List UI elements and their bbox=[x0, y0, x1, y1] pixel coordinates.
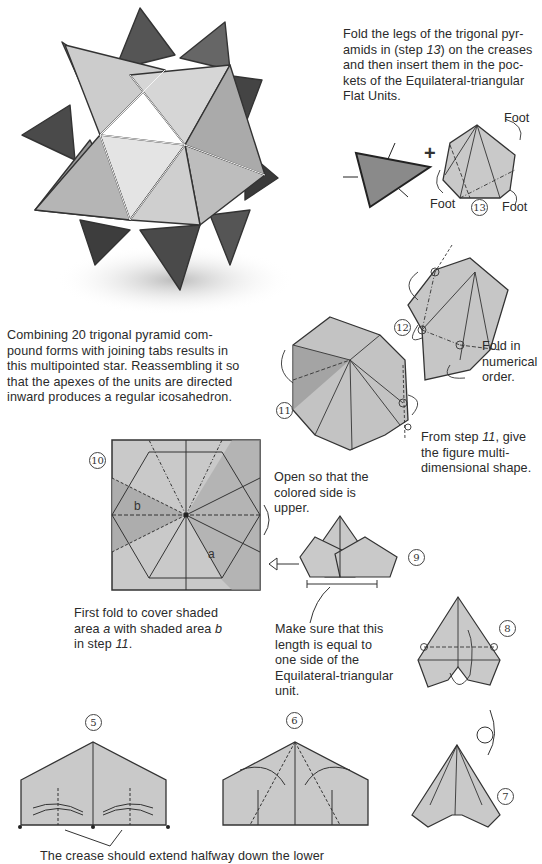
step-number-6: 6 bbox=[286, 712, 303, 729]
pointer-arrow bbox=[300, 585, 340, 625]
step-8-diagram bbox=[410, 595, 510, 695]
step-number-11: 11 bbox=[276, 402, 293, 419]
caption-insert-legs: Fold the legs of the trigonal pyr- amids… bbox=[343, 27, 533, 105]
foot-label: Foot bbox=[502, 200, 527, 214]
multipointed-star-drawing bbox=[0, 0, 300, 320]
caption-make-sure-length: Make sure that this length is equal to o… bbox=[275, 622, 393, 700]
step-10-crease-diagram: b a bbox=[112, 440, 262, 592]
caption-from-step-11: From step 11, give the figure multi- dim… bbox=[421, 430, 531, 477]
step-5-diagram bbox=[18, 740, 173, 830]
caption-open-colored-side: Open so that the colored side is upper. bbox=[274, 470, 369, 517]
step-7-diagram bbox=[400, 705, 520, 830]
svg-text:b: b bbox=[134, 499, 141, 513]
caption-first-fold: First fold to cover shaded area a with s… bbox=[74, 606, 222, 653]
svg-text:a: a bbox=[208, 547, 215, 561]
step-number-9: 9 bbox=[408, 549, 425, 566]
step-9-diagram bbox=[265, 512, 405, 592]
step-11-diagram bbox=[290, 315, 420, 455]
caption-crease-note: The crease should extend halfway down th… bbox=[40, 849, 324, 864]
step-number-10: 10 bbox=[89, 452, 106, 469]
step-number-7: 7 bbox=[497, 788, 514, 805]
caption-star-description: Combining 20 trigonal pyramid com- pound… bbox=[7, 328, 239, 406]
caption-fold-numerical: Fold in numerical order. bbox=[482, 339, 538, 386]
step-number-5: 5 bbox=[85, 714, 102, 731]
step-number-8: 8 bbox=[499, 620, 516, 637]
svg-text:+: + bbox=[424, 142, 436, 164]
step-6-diagram bbox=[220, 740, 370, 830]
foot-label: Foot bbox=[504, 111, 529, 125]
pointer-arrows bbox=[60, 828, 135, 848]
foot-label: Foot bbox=[430, 197, 455, 211]
step-number-13: 13 bbox=[471, 199, 488, 216]
